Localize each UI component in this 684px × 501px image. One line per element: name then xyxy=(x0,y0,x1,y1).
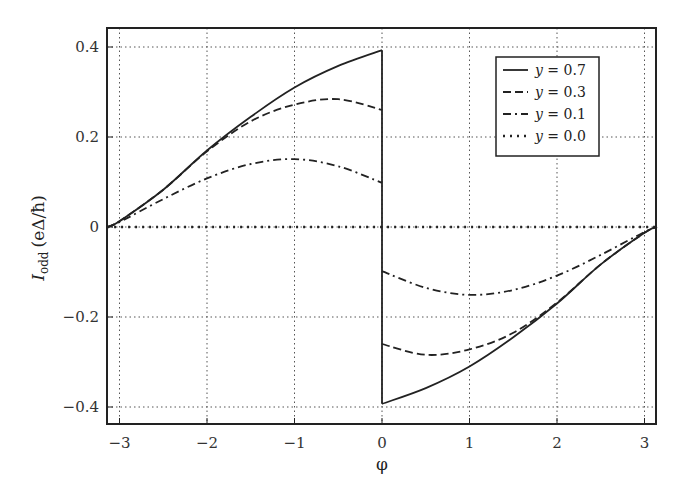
legend-label: y = 0.0 xyxy=(534,128,586,144)
y-tick-label: 0.2 xyxy=(75,128,99,146)
svg-text:Iodd(eΔ/ħ): Iodd(eΔ/ħ) xyxy=(28,195,51,282)
x-axis-label: φ xyxy=(376,454,388,474)
x-tick-label: −3 xyxy=(108,434,130,452)
chart: −3−2−10123 −0.4−0.200.20.4 φ Iodd(eΔ/ħ) … xyxy=(0,0,684,501)
legend-label: y = 0.1 xyxy=(534,106,586,122)
y-tick-label: −0.2 xyxy=(63,308,99,326)
y-axis-label: Iodd(eΔ/ħ) xyxy=(28,195,51,282)
legend: y = 0.7y = 0.3y = 0.1y = 0.0 xyxy=(496,57,599,156)
series-line-right xyxy=(382,227,657,295)
x-tick-label: −1 xyxy=(283,434,305,452)
series-line-left xyxy=(107,159,382,227)
y-tick-label: 0 xyxy=(89,218,99,236)
x-tick-label: 0 xyxy=(377,434,387,452)
x-tick-label: −2 xyxy=(196,434,218,452)
y-tick-label: 0.4 xyxy=(75,38,99,56)
series-line-left xyxy=(107,99,382,227)
y-axis-ticks: −0.4−0.200.20.4 xyxy=(63,38,113,416)
x-tick-label: 2 xyxy=(552,434,562,452)
x-tick-label: 1 xyxy=(465,434,475,452)
legend-label: y = 0.3 xyxy=(534,84,586,100)
y-tick-label: −0.4 xyxy=(63,398,99,416)
legend-label: y = 0.7 xyxy=(534,62,586,78)
x-tick-label: 3 xyxy=(640,434,650,452)
